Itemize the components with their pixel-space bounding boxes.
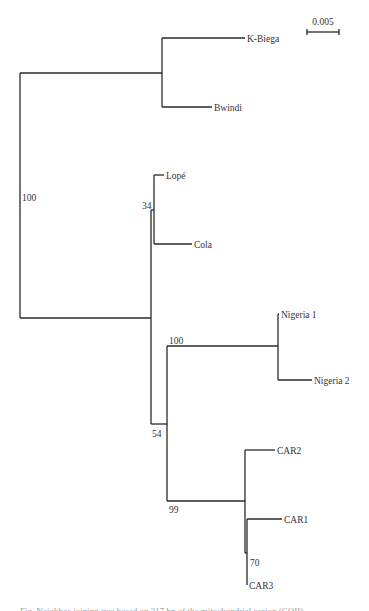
bootstrap-value-nigeria: 100 — [169, 336, 184, 346]
taxon-labels: K-BiegaBwindiLopéColaNigeria 1Nigeria 2C… — [166, 34, 350, 591]
taxon-label-lope: Lopé — [166, 171, 186, 181]
bootstrap-value-car1-car3: 70 — [250, 558, 260, 568]
bootstrap-value-western-central: 54 — [152, 429, 162, 439]
bootstrap-labels: 10034100549970 — [22, 193, 260, 568]
taxon-label-car3: CAR3 — [249, 581, 274, 591]
taxon-label-cola: Cola — [194, 240, 213, 250]
taxon-label-car1: CAR1 — [284, 515, 309, 525]
taxon-label-bwindi: Bwindi — [214, 103, 242, 113]
taxon-label-nigeria-1: Nigeria 1 — [281, 310, 317, 320]
phylogenetic-tree: 0.005 K-BiegaBwindiLopéColaNigeria 1Nige… — [0, 0, 369, 611]
bootstrap-value-car: 99 — [169, 505, 179, 515]
scale-bar: 0.005 — [307, 17, 339, 35]
bootstrap-value-root: 100 — [22, 193, 37, 203]
tree-branches — [20, 38, 312, 585]
scale-bar-label: 0.005 — [312, 17, 334, 27]
taxon-label-k-biega: K-Biega — [247, 34, 280, 44]
figure-caption: Fig. Neighbor-joining tree based on 317 … — [20, 603, 369, 611]
taxon-label-nigeria-2: Nigeria 2 — [314, 376, 350, 386]
taxon-label-car2: CAR2 — [277, 446, 302, 456]
bootstrap-value-lope-cola: 34 — [142, 201, 152, 211]
